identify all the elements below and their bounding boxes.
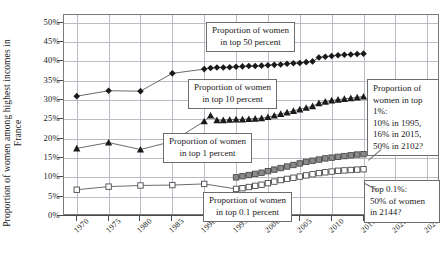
data-point <box>201 66 208 73</box>
data-point <box>207 65 214 72</box>
data-point <box>252 171 257 176</box>
data-point <box>303 159 308 164</box>
callout-top-0-1-percent: Top 0.1%: 50% of women in 2144? <box>364 180 440 223</box>
data-point <box>296 60 303 67</box>
series-white-square <box>74 167 366 193</box>
annotation-top-50: Proportion of women in top 50 percent <box>206 22 295 52</box>
data-point <box>214 64 221 71</box>
data-point <box>259 170 264 175</box>
data-point <box>252 63 259 70</box>
data-point <box>278 177 283 182</box>
data-point <box>310 172 315 177</box>
data-point <box>105 139 112 146</box>
data-point <box>322 53 329 60</box>
data-point <box>316 54 323 61</box>
data-point <box>329 169 334 174</box>
data-point <box>303 59 310 66</box>
data-point <box>233 63 240 70</box>
data-point <box>284 176 289 181</box>
chart-figure: Proportion of women among highest income… <box>0 0 448 266</box>
data-point <box>323 170 328 175</box>
data-point <box>348 167 353 172</box>
y-axis-tick-mark <box>57 118 63 119</box>
data-point <box>233 175 238 180</box>
data-point <box>284 164 289 169</box>
data-point <box>354 167 359 172</box>
y-axis-tick-mark <box>57 215 63 216</box>
data-point <box>354 51 361 58</box>
data-point <box>303 173 308 178</box>
data-point <box>233 186 238 191</box>
data-point <box>73 93 80 100</box>
y-axis-tick-mark <box>57 99 63 100</box>
y-axis-tick-mark <box>57 176 63 177</box>
data-point <box>202 181 207 186</box>
data-point <box>239 63 246 70</box>
y-axis-tick-mark <box>57 157 63 158</box>
data-point <box>240 185 245 190</box>
callout-top-1-percent: Proportion of women in top 1%: 10% in 19… <box>367 79 439 156</box>
data-point <box>309 58 316 65</box>
data-point <box>291 162 296 167</box>
data-point <box>226 64 233 71</box>
data-point <box>252 183 257 188</box>
data-point <box>328 53 335 60</box>
x-axis-tick-mark <box>108 215 109 221</box>
data-point <box>137 88 144 95</box>
data-point <box>170 182 175 187</box>
y-axis-tick-mark <box>57 41 63 42</box>
data-point <box>220 64 227 71</box>
data-point <box>138 183 143 188</box>
annotation-top-1: Proportion of women in top 1 percent <box>163 133 252 163</box>
data-point <box>272 167 277 172</box>
data-point <box>277 61 284 68</box>
data-point <box>335 168 340 173</box>
data-point <box>335 52 342 59</box>
data-point <box>169 70 176 77</box>
data-point <box>246 184 251 189</box>
data-point <box>284 60 291 67</box>
data-point <box>342 168 347 173</box>
data-point <box>74 187 79 192</box>
x-axis-tick-mark <box>299 215 300 221</box>
data-point <box>258 62 265 69</box>
data-point <box>278 165 283 170</box>
data-point <box>259 182 264 187</box>
y-axis-tick-mark <box>57 60 63 61</box>
y-axis-tick-mark <box>57 196 63 197</box>
data-point <box>106 184 111 189</box>
x-axis-tick-mark <box>331 215 332 221</box>
y-axis-tick-mark <box>57 138 63 139</box>
data-point <box>347 51 354 58</box>
data-point <box>316 170 321 175</box>
data-point <box>246 172 251 177</box>
y-axis-tick-mark <box>57 22 63 23</box>
data-point <box>246 63 253 70</box>
data-point <box>348 153 353 158</box>
x-axis-tick-mark <box>139 215 140 221</box>
data-point <box>297 174 302 179</box>
data-point <box>105 87 112 94</box>
data-point <box>354 152 359 157</box>
data-point <box>291 175 296 180</box>
data-point <box>341 52 348 59</box>
data-point <box>240 173 245 178</box>
data-point <box>329 155 334 160</box>
data-point <box>272 179 277 184</box>
data-point <box>265 180 270 185</box>
data-point <box>361 167 366 172</box>
data-point <box>290 60 297 67</box>
data-point <box>310 158 315 163</box>
data-point <box>297 161 302 166</box>
data-point <box>265 168 270 173</box>
data-point <box>265 62 272 69</box>
y-axis-tick-mark <box>57 80 63 81</box>
data-point <box>271 62 278 69</box>
data-point <box>361 151 366 156</box>
data-point <box>323 156 328 161</box>
data-point <box>360 50 367 57</box>
data-point <box>309 103 316 110</box>
annotation-top-10: Proportion of women in top 10 percent <box>188 79 277 109</box>
x-axis-tick-mark <box>171 215 172 221</box>
y-axis-tick-labels: 0%5%10%15%20%25%30%35%40%45%50% <box>22 0 60 266</box>
